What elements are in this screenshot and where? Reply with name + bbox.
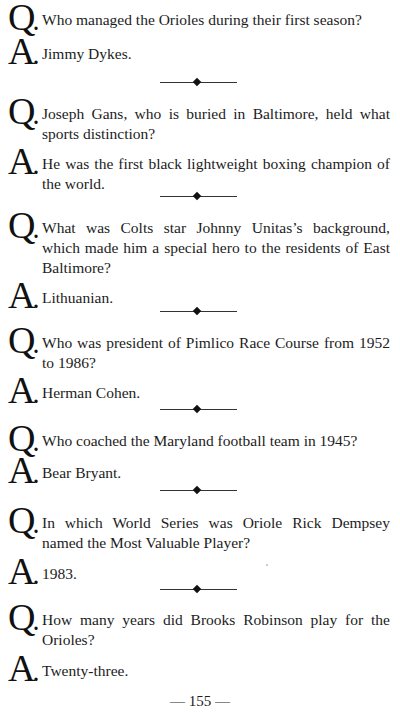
question-text: What was Colts star Johnny Unitas’s back… <box>42 210 390 278</box>
question-text: Joseph Gans, who is buried in Baltimore,… <box>42 96 390 144</box>
divider <box>160 192 237 201</box>
answer-7: A. Twenty-three. <box>8 653 390 681</box>
answer-text: Jimmy Dykes. <box>42 36 390 64</box>
divider <box>160 405 237 414</box>
answer-6: A. 1983. <box>8 556 390 584</box>
question-4: Q. Who was president of Pimlico Race Cou… <box>8 325 390 373</box>
answer-marker: A. <box>8 36 37 72</box>
diamond-ornament-icon <box>193 78 201 86</box>
question-6: Q. In which World Series was Oriole Rick… <box>8 505 390 553</box>
question-marker: Q. <box>8 325 37 361</box>
diamond-ornament-icon <box>193 307 201 315</box>
book-page: Q. Who managed the Orioles during their … <box>0 0 400 714</box>
answer-5: A. Bear Bryant. <box>8 455 390 483</box>
question-text: Who was president of Pimlico Race Course… <box>42 325 390 373</box>
answer-3: A. Lithuanian. <box>8 280 390 308</box>
page-number: — 155 — <box>0 693 400 710</box>
question-text: In which World Series was Oriole Rick De… <box>42 505 390 553</box>
diamond-ornament-icon <box>193 405 201 413</box>
answer-marker: A. <box>8 653 37 689</box>
answer-marker: A. <box>8 375 37 411</box>
answer-text: Bear Bryant. <box>42 455 390 483</box>
diamond-ornament-icon <box>193 192 201 200</box>
diamond-ornament-icon <box>193 486 201 494</box>
print-speck <box>266 564 268 566</box>
answer-marker: A. <box>8 146 37 182</box>
question-marker: Q. <box>8 210 37 246</box>
divider <box>160 78 237 87</box>
answer-text: 1983. <box>42 556 390 584</box>
question-text: Who coached the Maryland football team i… <box>42 423 390 451</box>
question-7: Q. How many years did Brooks Robinson pl… <box>8 602 390 650</box>
divider <box>160 585 237 594</box>
answer-marker: A. <box>8 455 37 491</box>
question-text: Who managed the Orioles during their fir… <box>42 2 390 30</box>
question-2: Q. Joseph Gans, who is buried in Baltimo… <box>8 96 390 144</box>
answer-4: A. Herman Cohen. <box>8 375 390 403</box>
question-1: Q. Who managed the Orioles during their … <box>8 2 390 30</box>
answer-text: Herman Cohen. <box>42 375 390 403</box>
question-marker: Q. <box>8 602 37 638</box>
divider <box>160 307 237 316</box>
question-3: Q. What was Colts star Johnny Unitas’s b… <box>8 210 390 278</box>
question-5: Q. Who coached the Maryland football tea… <box>8 423 390 451</box>
answer-marker: A. <box>8 556 37 592</box>
answer-1: A. Jimmy Dykes. <box>8 36 390 64</box>
answer-text: Twenty-three. <box>42 653 390 681</box>
divider <box>160 486 237 495</box>
answer-text: Lithuanian. <box>42 280 390 308</box>
answer-text: He was the first black lightweight boxin… <box>42 146 390 194</box>
answer-marker: A. <box>8 280 37 316</box>
question-text: How many years did Brooks Robinson play … <box>42 602 390 650</box>
diamond-ornament-icon <box>193 585 201 593</box>
question-marker: Q. <box>8 96 37 132</box>
answer-2: A. He was the first black lightweight bo… <box>8 146 390 194</box>
question-marker: Q. <box>8 505 37 541</box>
